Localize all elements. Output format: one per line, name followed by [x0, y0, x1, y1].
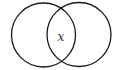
intersection-label: x [58, 30, 65, 44]
venn-diagram: x [0, 0, 121, 70]
left-circle [12, 3, 76, 67]
